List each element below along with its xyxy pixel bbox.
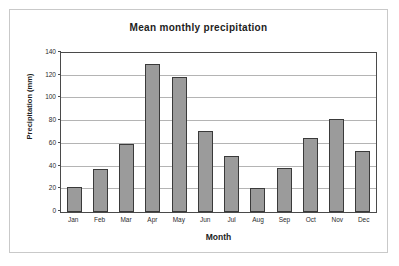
bar	[224, 156, 239, 212]
x-axis-tick-label: Dec	[351, 216, 377, 230]
y-axis-tick-label: 80	[34, 117, 56, 124]
plot-area	[60, 52, 377, 213]
y-axis-tick-label: 0	[34, 208, 56, 215]
x-axis-tick-label: May	[166, 216, 192, 230]
y-axis-tick-label: 60	[34, 140, 56, 147]
bar	[355, 151, 370, 212]
x-axis-ticks: JanFebMarAprMayJunJulAugSepOctNovDec	[60, 216, 377, 230]
bar-slot	[245, 53, 271, 212]
bar	[303, 138, 318, 212]
bar	[145, 64, 160, 212]
chart-title: Mean monthly precipitation	[10, 22, 387, 33]
bar-slot	[61, 53, 87, 212]
x-axis-tick-label: Jan	[60, 216, 86, 230]
x-axis-title: Month	[60, 232, 377, 242]
chart-area: Mean monthly precipitation Precipitation…	[10, 10, 387, 252]
x-axis-tick-label: Aug	[245, 216, 271, 230]
bar-slot	[324, 53, 350, 212]
bar-series	[61, 53, 376, 212]
x-axis-tick-label: Mar	[113, 216, 139, 230]
bar-slot	[114, 53, 140, 212]
bar	[250, 188, 265, 212]
bar-slot	[297, 53, 323, 212]
bar	[172, 77, 187, 212]
bar	[119, 144, 134, 212]
bar	[277, 168, 292, 212]
x-axis-tick-label: Nov	[324, 216, 350, 230]
x-axis-tick-label: Feb	[87, 216, 113, 230]
bar	[329, 119, 344, 212]
bar-slot	[140, 53, 166, 212]
bar-slot	[87, 53, 113, 212]
bar-slot	[271, 53, 297, 212]
y-axis-tick-label: 100	[34, 94, 56, 101]
bar-slot	[192, 53, 218, 212]
bar	[93, 169, 108, 212]
x-axis-tick-label: Jul	[219, 216, 245, 230]
y-axis-tick-label: 140	[34, 49, 56, 56]
bar-slot	[219, 53, 245, 212]
scanned-page-frame: Mean monthly precipitation Precipitation…	[9, 9, 388, 253]
y-axis-tick-label: 120	[34, 72, 56, 79]
y-axis-tick-label: 20	[34, 185, 56, 192]
x-axis-tick-label: Sep	[271, 216, 297, 230]
bar	[198, 131, 213, 212]
y-axis-ticks: 020406080100120140	[32, 52, 56, 211]
y-axis-tick-label: 40	[34, 163, 56, 170]
x-axis-tick-label: Oct	[298, 216, 324, 230]
bar-slot	[166, 53, 192, 212]
x-axis-tick-label: Jun	[192, 216, 218, 230]
bar-slot	[350, 53, 376, 212]
bar	[67, 187, 82, 212]
x-axis-tick-label: Apr	[139, 216, 165, 230]
